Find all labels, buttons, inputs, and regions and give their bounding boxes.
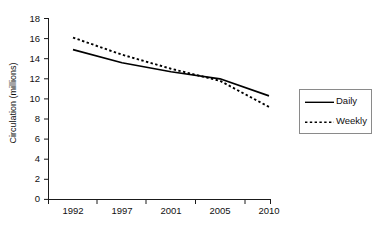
legend-item-weekly: Weekly bbox=[300, 112, 371, 132]
y-axis-ticks bbox=[44, 19, 48, 200]
line-chart: Circulation (millions) 18 16 14 12 10 8 … bbox=[0, 0, 380, 239]
legend-label-daily: Daily bbox=[336, 95, 357, 106]
legend: Daily Weekly bbox=[299, 89, 372, 134]
legend-swatch-dotted bbox=[305, 121, 334, 123]
legend-label-weekly: Weekly bbox=[336, 115, 367, 126]
legend-item-daily: Daily bbox=[300, 92, 371, 112]
legend-swatch-solid bbox=[305, 101, 334, 103]
series-line-daily bbox=[73, 50, 269, 96]
